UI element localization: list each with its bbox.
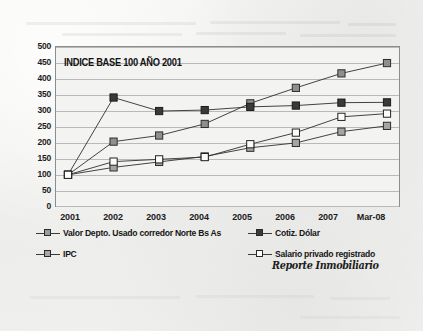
series-marker (156, 132, 163, 139)
legend-swatch-square-icon (36, 228, 60, 238)
series-marker (292, 129, 299, 136)
legend-label: IPC (63, 249, 77, 259)
ghost-text-line (62, 33, 182, 36)
chart-series-canvas (55, 46, 400, 207)
y-axis-tick-label: 0 (11, 201, 51, 211)
legend-item-salario-privado[interactable]: Salario privado registrado (248, 249, 375, 259)
ghost-text-line (196, 32, 286, 35)
y-axis-tick-label: 250 (11, 121, 51, 131)
series-marker (110, 158, 117, 165)
series-marker (383, 99, 390, 106)
y-axis-tick-label: 300 (11, 105, 51, 115)
x-axis-tick-label: Mar-08 (343, 212, 399, 222)
y-axis-tick-label: 100 (11, 169, 51, 179)
ghost-text-line (300, 316, 400, 319)
series-marker (156, 156, 163, 163)
y-axis-tick-label: 150 (11, 153, 51, 163)
ghost-text-line (196, 295, 314, 298)
series-marker (156, 107, 163, 114)
series-marker (383, 110, 390, 117)
series-marker (338, 128, 345, 135)
legend-label: Cotiz. Dólar (275, 228, 320, 238)
publisher-watermark: Reporte Inmobiliario (272, 259, 379, 271)
legend-item-ipc[interactable]: IPC (36, 249, 77, 259)
y-axis-tick-label: 500 (11, 41, 51, 51)
series-marker (338, 70, 345, 77)
ghost-text-line (26, 22, 196, 25)
series-layer (64, 59, 390, 178)
y-axis-tick-label: 200 (11, 137, 51, 147)
series-marker (292, 139, 299, 146)
series-marker (64, 171, 71, 178)
series-marker (247, 141, 254, 148)
series-marker (338, 99, 345, 106)
y-axis-tick-label: 350 (11, 89, 51, 99)
ghost-text-line (348, 23, 396, 26)
legend-item-cotiz-dolar[interactable]: Cotiz. Dólar (248, 228, 320, 238)
series-marker (383, 122, 390, 129)
legend-swatch-square-icon (248, 249, 272, 259)
series-marker (201, 106, 208, 113)
series-marker (201, 153, 208, 160)
ghost-text-line (300, 34, 396, 37)
legend-swatch-square-icon (248, 228, 272, 238)
series-marker (201, 120, 208, 127)
legend-swatch-square-icon (36, 249, 60, 259)
ghost-text-line (330, 297, 390, 300)
y-axis-tick-label: 50 (11, 185, 51, 195)
y-axis-tick-label: 400 (11, 73, 51, 83)
legend-label: Salario privado registrado (275, 249, 375, 259)
series-marker (292, 84, 299, 91)
series-marker (110, 138, 117, 145)
series-marker (292, 102, 299, 109)
scanned-page: 500 450 400 350 300 250 200 150 100 50 0… (0, 0, 423, 331)
series-marker (110, 94, 117, 101)
legend-label: Valor Depto. Usado corredor Norte Bs As (63, 228, 221, 238)
y-axis-tick-label: 450 (11, 57, 51, 67)
ghost-text-line (210, 21, 340, 24)
series-marker (247, 103, 254, 110)
legend-item-valor-depto[interactable]: Valor Depto. Usado corredor Norte Bs As (36, 228, 221, 238)
series-marker (383, 59, 390, 66)
ghost-text-line (30, 296, 180, 299)
series-marker (338, 113, 345, 120)
